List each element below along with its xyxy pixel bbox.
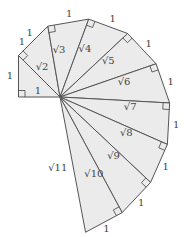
outer-edge-label: 1 (146, 38, 152, 49)
hypotenuse-label: √7 (124, 101, 137, 112)
outer-edge-label: 1 (162, 161, 168, 172)
outer-edge-label: 1 (138, 197, 144, 208)
outer-edge-label: 1 (110, 13, 116, 24)
hypotenuse-label: √5 (102, 55, 115, 66)
hypotenuse-label: √3 (53, 44, 66, 55)
leg-label: 1 (35, 85, 41, 96)
outer-edge-label: 1 (173, 119, 179, 130)
hypotenuse-label: √10 (84, 168, 103, 179)
hypotenuse-label: √2 (36, 61, 49, 72)
outer-edge-label: 1 (19, 36, 25, 47)
hypotenuse-label: √6 (118, 76, 131, 87)
side-label: 1 (7, 70, 13, 81)
outer-edge-label: 1 (168, 76, 174, 87)
outer-edge-label: 1 (66, 8, 72, 19)
hypotenuse-label: √8 (120, 127, 133, 138)
outer-edge-label: 1 (27, 27, 33, 38)
hypotenuse-label: √11 (48, 162, 67, 173)
hypotenuse-label: √9 (107, 150, 120, 161)
outer-edge-label: 1 (103, 223, 109, 234)
spiral-of-theodorus-diagram: 11√2√3√4√5√6√7√8√9√10√111111111111 (0, 0, 184, 237)
hypotenuse-label: √4 (79, 43, 92, 54)
